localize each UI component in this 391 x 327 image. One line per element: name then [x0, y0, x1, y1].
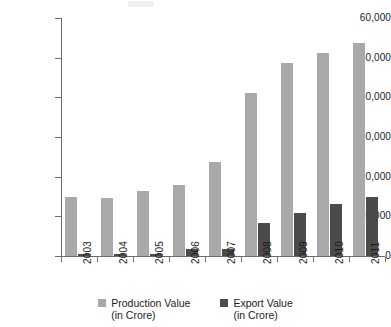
bar-production — [317, 53, 329, 256]
bar-production — [353, 43, 365, 256]
x-axis-label: 2010 — [335, 241, 345, 264]
bar-group — [281, 18, 317, 256]
x-tick-mark — [313, 257, 314, 262]
x-tick-mark — [61, 257, 62, 262]
x-axis-label: 2006 — [191, 241, 201, 264]
bar-production — [245, 93, 257, 256]
bar-production — [137, 191, 149, 256]
x-axis-label: 2009 — [299, 241, 309, 264]
x-axis-label: 2003 — [83, 241, 93, 264]
x-axis-label: 2008 — [263, 241, 273, 264]
x-axis-label: 2004 — [119, 241, 129, 264]
legend-swatch-export-icon — [220, 299, 228, 307]
bar-production — [65, 197, 77, 256]
bar-group — [209, 18, 245, 256]
x-axis-label: 2005 — [155, 241, 165, 264]
bar-group — [101, 18, 137, 256]
bar-production — [173, 185, 185, 256]
x-tick-mark — [169, 257, 170, 262]
x-tick-mark — [241, 257, 242, 262]
x-tick-mark — [277, 257, 278, 262]
legend-sublabel-export: (in Crore) — [233, 309, 292, 321]
bar-production — [281, 63, 293, 256]
bar-group — [65, 18, 101, 256]
legend-swatch-production-icon — [98, 299, 106, 307]
bar-production — [101, 198, 113, 256]
bars-layer — [61, 18, 385, 256]
legend-label-export-wrap: Export Value (in Crore) — [233, 297, 292, 321]
bar-group — [317, 18, 353, 256]
bar-chart: 010,00020,00030,00040,00050,00060,000 20… — [0, 0, 391, 327]
scan-artifact — [128, 1, 154, 7]
x-tick-mark — [385, 257, 386, 262]
bar-production — [209, 162, 221, 256]
legend-label-production: Production Value — [111, 297, 190, 309]
legend-item-export[interactable]: Export Value (in Crore) — [220, 297, 292, 321]
legend-item-production[interactable]: Production Value (in Crore) — [98, 297, 190, 321]
legend-label-production-wrap: Production Value (in Crore) — [111, 297, 190, 321]
x-tick-mark — [349, 257, 350, 262]
x-axis-label: 2011 — [371, 242, 381, 264]
legend-sublabel-production: (in Crore) — [111, 309, 190, 321]
chart-legend: Production Value (in Crore) Export Value… — [0, 297, 391, 321]
bar-group — [137, 18, 173, 256]
x-tick-mark — [205, 257, 206, 262]
x-axis-label: 2007 — [227, 241, 237, 264]
legend-label-export: Export Value — [233, 297, 292, 309]
x-tick-mark — [133, 257, 134, 262]
bar-group — [245, 18, 281, 256]
x-tick-mark — [97, 257, 98, 262]
bar-group — [173, 18, 209, 256]
bar-group — [353, 18, 389, 256]
